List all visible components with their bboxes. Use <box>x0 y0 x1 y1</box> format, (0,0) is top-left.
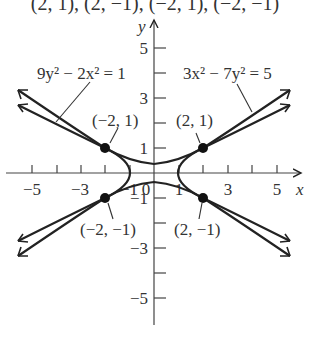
svg-text:−3: −3 <box>71 180 89 199</box>
svg-text:3: 3 <box>140 89 149 108</box>
point-neg2-1 <box>100 143 110 153</box>
header-text: (2, 1), (2, −1), (−2, 1), (−2, −1) <box>31 0 279 15</box>
svg-text:5: 5 <box>273 180 282 199</box>
point-label-neg2-neg1: (−2, −1) <box>80 220 136 239</box>
svg-text:−5: −5 <box>130 289 148 308</box>
svg-text:y: y <box>136 17 146 36</box>
point-label-2-neg1: (2, −1) <box>174 220 220 239</box>
svg-text:−5: −5 <box>23 180 41 199</box>
svg-text:−1: −1 <box>130 189 148 208</box>
hyperbola-chart: (2, 1), (2, −1), (−2, 1), (−2, −1) −5 −3… <box>0 0 310 351</box>
eq2-label: 3x² − 7y² = 5 <box>183 64 272 83</box>
svg-text:5: 5 <box>140 39 149 58</box>
eq1-label: 9y² − 2x² = 1 <box>37 64 126 83</box>
point-neg2-neg1 <box>100 193 110 203</box>
svg-text:−3: −3 <box>130 239 148 258</box>
point-label-2-1: (2, 1) <box>176 111 213 130</box>
svg-text:3: 3 <box>224 180 233 199</box>
svg-text:1: 1 <box>140 139 149 158</box>
point-2-1 <box>198 143 208 153</box>
point-label-neg2-1: (−2, 1) <box>92 111 138 130</box>
point-2-neg1 <box>198 193 208 203</box>
svg-text:x: x <box>295 180 304 199</box>
